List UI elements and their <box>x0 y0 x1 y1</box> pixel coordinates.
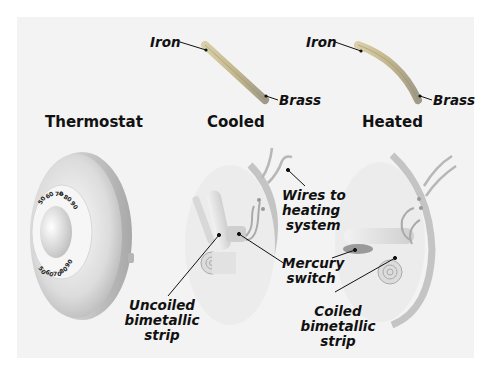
wires-line-3: system <box>282 218 346 233</box>
svg-text:70: 70 <box>55 190 63 197</box>
cooled-iron-label: Iron <box>150 35 181 50</box>
uncoiled-line-2: bimetallic <box>124 313 200 328</box>
cooled-title: Cooled <box>207 113 265 131</box>
coiled-line-1: Coiled <box>300 304 376 319</box>
wires-line-1: Wires to <box>282 188 346 203</box>
mercury-switch-callout: Mercury switch <box>282 256 340 286</box>
uncoiled-line-3: strip <box>124 328 200 343</box>
mercury-line-1: Mercury <box>282 256 340 271</box>
mercury-line-2: switch <box>282 271 340 286</box>
cooled-thermostat-open <box>185 148 292 325</box>
uncoiled-strip-callout: Uncoiled bimetallic strip <box>124 298 200 343</box>
cooled-bimetallic-strip <box>205 45 265 100</box>
wires-line-2: heating <box>282 203 346 218</box>
coiled-strip-callout: Coiled bimetallic strip <box>300 304 376 349</box>
thermostat-illustration: 50 60 70 80 90 50 60 70 80 90 <box>0 0 487 370</box>
heated-title: Heated <box>362 113 423 131</box>
heated-thermostat-open <box>335 155 456 325</box>
heated-iron-label: Iron <box>306 35 337 50</box>
thermostat-unit <box>30 152 134 320</box>
wires-callout: Wires to heating system <box>282 188 346 233</box>
uncoiled-line-1: Uncoiled <box>124 298 200 313</box>
thermostat-title: Thermostat <box>45 113 143 131</box>
coiled-line-3: strip <box>300 334 376 349</box>
coiled-line-2: bimetallic <box>300 319 376 334</box>
cooled-brass-label: Brass <box>279 93 321 108</box>
heated-bimetallic-strip <box>358 45 418 100</box>
heated-brass-label: Brass <box>433 93 475 108</box>
